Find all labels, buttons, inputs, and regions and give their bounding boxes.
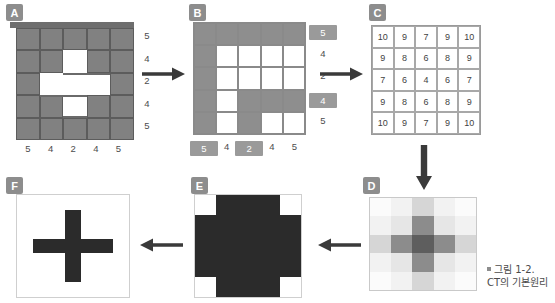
heatmap-cell [455,253,476,271]
grid-cell-empty [283,112,305,134]
image-pixel-dark [216,277,237,297]
block-cube [87,28,111,50]
panel-label-f: F [6,177,23,194]
grid-cell-empty [261,67,283,89]
cross-pixel-light [113,195,129,210]
grid-cell-empty [216,90,238,112]
image-pixel-dark [280,236,301,256]
cross-pixel-light [81,195,97,210]
panel-label-a: A [6,4,23,21]
panel-label-d: D [363,177,380,194]
matrix-cell: 10 [458,112,480,134]
heatmap-cell [391,198,412,216]
heatmap-cell [455,272,476,290]
heatmap-cell [412,216,433,234]
grid-cell-empty [216,67,238,89]
grid-cell-filled [194,45,216,67]
panel-b-row-label: 5 [309,25,337,40]
grid-cell-filled [194,23,216,45]
heatmap-cell [412,235,433,253]
image-pixel-light [280,277,301,297]
cross-pixel-light [17,239,33,254]
matrix-cell: 6 [415,91,437,113]
cross-pixel-light [49,282,65,297]
cross-pixel-light [97,282,113,297]
panel-a-col-label: 4 [89,143,103,154]
cross-pixel-light [49,195,65,210]
cross-pixel-light [33,210,49,225]
block-cube [110,95,134,117]
cross-pixel-light [17,210,33,225]
cross-pixel-light [113,224,129,239]
heatmap-cell [391,253,412,271]
heatmap-cell [391,235,412,253]
block-cube [16,118,40,140]
heatmap-cell [434,253,455,271]
cross-pixel-light [17,282,33,297]
matrix-cell: 9 [437,112,459,134]
cross-pixel-light [17,253,33,268]
grid-cell-empty [238,67,260,89]
heatmap-cell [370,272,391,290]
block-cube [63,118,87,140]
cross-pixel-light [97,210,113,225]
block-cube [40,50,64,72]
block-void [63,73,87,95]
matrix-cell: 10 [372,112,394,134]
panel-label-e: E [191,177,208,194]
panel-b-col-label: 2 [235,141,263,156]
grid-cell-filled [261,23,283,45]
panel-a-col-label: 4 [44,143,58,154]
block-inner-shadow [40,95,64,97]
panel-a-col-label: 5 [111,143,125,154]
block-inner-shadow [63,116,87,118]
heatmap-cell [370,235,391,253]
image-pixel-light [280,195,301,215]
heatmap-cell [455,216,476,234]
cross-pixel-light [33,282,49,297]
cross-pixel-light [65,195,81,210]
image-pixel-light [195,277,216,297]
arrow-b-to-c-icon [320,66,364,82]
matrix-cell: 7 [458,69,480,91]
matrix-cell: 8 [437,48,459,70]
heatmap-cell [455,198,476,216]
panel-a-row-label: 4 [140,53,154,64]
matrix-cell: 4 [415,69,437,91]
matrix-cell: 9 [458,91,480,113]
panel-c-attenuation-matrix: 10979109868976467986891097910 [371,25,481,135]
image-pixel-dark [216,236,237,256]
block-cube [110,73,134,95]
heatmap-cell [412,272,433,290]
matrix-cell: 8 [394,91,416,113]
panel-d-grayscale-heatmap [369,197,477,291]
attenuation-matrix: 10979109868976467986891097910 [371,25,481,135]
block-inner-shadow [63,73,87,75]
image-pixel-dark [259,256,280,276]
block-cube [63,28,87,50]
matrix-cell: 10 [372,26,394,48]
panel-f-reconstructed-cross [16,194,130,298]
heatmap-cell [434,235,455,253]
heatmap-cell [370,198,391,216]
cross-pixel-light [97,253,113,268]
grid-cell-empty [216,45,238,67]
cross-pixel-light [81,210,97,225]
block-cube [87,118,111,140]
grid-cell-filled [283,23,305,45]
block-cube [40,28,64,50]
matrix-cell: 9 [372,48,394,70]
cross-pixel-light [49,210,65,225]
heatmap-cell [434,216,455,234]
block-void [63,95,87,117]
cross-pixel-light [113,253,129,268]
image-pixel-dark [259,195,280,215]
grid-cell-filled [261,90,283,112]
cross-pixel-dark [81,239,97,254]
cross-pixel-light [17,195,33,210]
cross-pixel-light [81,268,97,283]
image-pixel-dark [195,236,216,256]
cross-pixel-light [113,210,129,225]
grid-cell-filled [238,112,260,134]
panel-a-col-label: 2 [66,143,80,154]
